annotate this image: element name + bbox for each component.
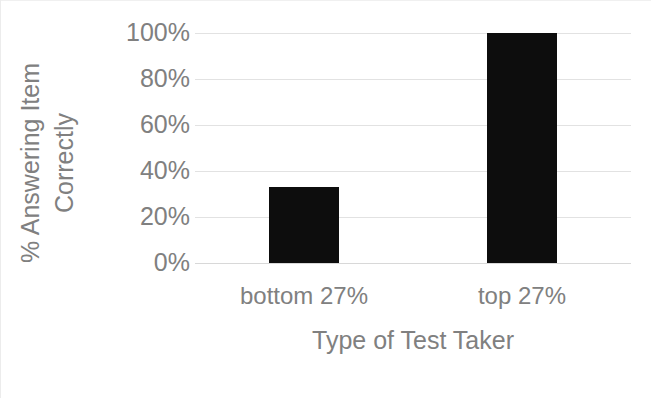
x-axis-category-labels: bottom 27%top 27% (195, 281, 631, 315)
x-axis-title: Type of Test Taker (195, 324, 631, 356)
bar-top-27- (487, 33, 557, 263)
gridline-20 (195, 217, 631, 218)
x-axis-category-label: top 27% (413, 281, 631, 315)
plot-area (195, 33, 631, 263)
y-axis-tick-label: 40% (70, 158, 190, 183)
y-axis-tick-label: 100% (70, 20, 190, 45)
gridline-0 (195, 263, 631, 264)
gridline-60 (195, 125, 631, 126)
figure-left-edge (0, 0, 1, 398)
y-axis-tick-label: 20% (70, 204, 190, 229)
y-axis-tick-label: 0% (70, 250, 190, 275)
y-axis-tick-label: 80% (70, 66, 190, 91)
gridline-100 (195, 33, 631, 34)
bar-chart-figure: % Answering Item Correctly 0%20%40%60%80… (0, 0, 651, 398)
gridline-80 (195, 79, 631, 80)
gridline-40 (195, 171, 631, 172)
x-axis-category-label: bottom 27% (195, 281, 413, 315)
bar-bottom-27- (269, 187, 339, 263)
figure-top-edge (0, 0, 651, 1)
y-axis-tick-labels: 0%20%40%60%80%100% (60, 33, 190, 263)
y-axis-tick-label: 60% (70, 112, 190, 137)
